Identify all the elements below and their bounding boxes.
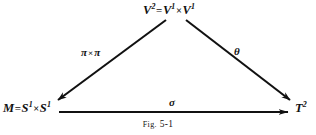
edge-label-sigma: σ	[169, 97, 175, 108]
node-left-factor-right-exponent: 1	[47, 100, 51, 109]
node-right-base: T	[295, 101, 303, 115]
node-top-product-operator: ×	[175, 5, 182, 16]
node-left-factor-right-base: S	[40, 101, 47, 115]
node-left-relation: =	[14, 102, 21, 114]
node-left-factor-left-base: S	[22, 101, 29, 115]
node-left-product-operator: ×	[33, 103, 40, 114]
edge-pi-cross-pi	[58, 20, 166, 100]
edge-label-theta: θ	[234, 46, 240, 57]
commutative-diagram-graphic	[0, 0, 316, 135]
node-right-exponent: 2	[303, 100, 307, 109]
node-v-squared: V2=V1×V1	[143, 3, 195, 17]
figure-caption-prefix: Fig.	[143, 120, 157, 129]
node-manifold-m: M=S1×S1	[3, 101, 51, 115]
node-top-factor-right-exponent: 1	[191, 2, 195, 11]
edge-theta	[186, 20, 290, 100]
node-top-factor-right-base: V	[183, 3, 191, 17]
figure-caption-number: 5-1	[160, 119, 174, 129]
edge-label-pi-right: π	[94, 46, 100, 58]
node-left-base: M	[3, 101, 14, 115]
figure-container: V2=V1×V1 M=S1×S1 T2 π×π θ σ Fig. 5-1	[0, 0, 316, 135]
node-top-exponent: 2	[151, 2, 155, 11]
node-top-relation: =	[156, 4, 163, 16]
figure-caption: Fig. 5-1	[0, 120, 316, 130]
edge-label-pi-cross-pi: π×π	[81, 47, 100, 58]
node-torus-t-squared: T2	[295, 101, 307, 115]
